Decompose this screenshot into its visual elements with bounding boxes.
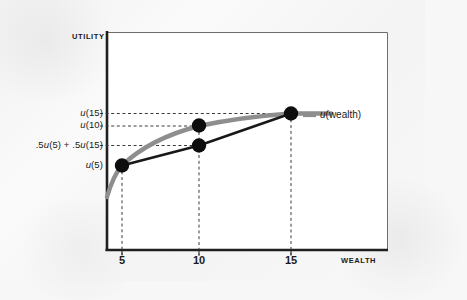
xtick-label-5: 5 bbox=[112, 254, 132, 266]
marker-u15 bbox=[284, 106, 298, 120]
marker-u10 bbox=[192, 118, 206, 132]
xtick-label-15: 15 bbox=[281, 254, 301, 266]
y-label-u10-arg: (10) bbox=[86, 119, 103, 130]
y-label-u10: u(10) bbox=[0, 119, 103, 130]
y-label-mixture-coef-a: .5 bbox=[36, 139, 44, 150]
y-axis-title: UTILITY bbox=[72, 32, 105, 41]
y-label-mixture: .5u(5) + .5u(15) bbox=[0, 139, 103, 150]
y-label-u15: u(15) bbox=[0, 107, 103, 118]
marker-u5 bbox=[115, 158, 129, 172]
series-label-utility-curve: u(wealth) bbox=[320, 109, 361, 120]
marker-mixture bbox=[192, 138, 206, 152]
y-label-u5: u(5) bbox=[0, 159, 103, 170]
y-label-mixture-arg-b: (15) bbox=[86, 139, 103, 150]
x-axis-title: WEALTH bbox=[341, 256, 376, 265]
y-label-mixture-mid: (5) + .5 bbox=[49, 139, 80, 150]
plot-area-background bbox=[107, 33, 388, 251]
xtick-label-10: 10 bbox=[189, 254, 209, 266]
y-label-u15-arg: (15) bbox=[86, 107, 103, 118]
series-label-arg: (wealth) bbox=[326, 109, 362, 120]
y-label-u5-arg: (5) bbox=[91, 159, 103, 170]
